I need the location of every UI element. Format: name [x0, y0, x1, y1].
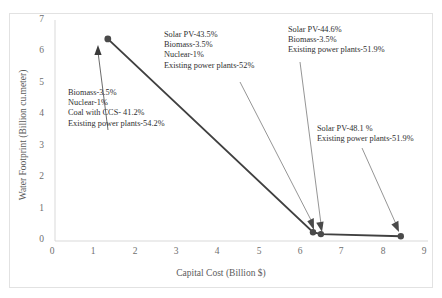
y-tick-7: 7 — [26, 14, 44, 24]
data-point-3 — [318, 231, 324, 237]
annotation-block-3: Solar PV-44.6% Biomass-3.5% Existing pow… — [288, 25, 385, 56]
leader-line-4 — [362, 148, 396, 224]
x-tick-1: 1 — [84, 246, 102, 256]
annotation-1-line-3: Coal with CCS- 41.2% — [68, 108, 165, 118]
data-point-1 — [104, 36, 111, 43]
y-tick-5: 5 — [26, 77, 44, 87]
x-tick-0: 0 — [43, 246, 61, 256]
y-tick-3: 3 — [26, 140, 44, 150]
x-tick-7: 7 — [332, 246, 350, 256]
x-tick-3: 3 — [167, 246, 185, 256]
annotation-2-line-4: Existing power plants-52% — [164, 61, 254, 71]
annotation-1-line-1: Biomass-3.5% — [68, 88, 165, 98]
annotation-block-2: Solar PV-43.5% Biomass-3.5% Nuclear-1% E… — [164, 30, 254, 71]
x-tick-8: 8 — [374, 246, 392, 256]
arrow-head-1 — [94, 45, 101, 55]
arrow-head-4 — [391, 221, 399, 232]
annotation-3-line-2: Biomass-3.5% — [288, 35, 385, 45]
x-tick-6: 6 — [291, 246, 309, 256]
annotation-2-line-2: Biomass-3.5% — [164, 40, 254, 50]
y-tick-0: 0 — [26, 234, 44, 244]
annotation-3-line-1: Solar PV-44.6% — [288, 25, 385, 35]
x-tick-4: 4 — [208, 246, 226, 256]
annotation-1-line-2: Nuclear-1% — [68, 98, 165, 108]
y-tick-1: 1 — [26, 203, 44, 213]
leader-line-2 — [240, 82, 312, 222]
x-tick-9: 9 — [415, 246, 433, 256]
x-tick-2: 2 — [126, 246, 144, 256]
y-tick-6: 6 — [26, 45, 44, 55]
arrow-head-3 — [316, 222, 323, 232]
annotation-1-line-4: Existing power plants-54.2% — [68, 119, 165, 129]
x-tick-5: 5 — [250, 246, 268, 256]
data-point-4 — [398, 233, 404, 239]
annotation-2-line-1: Solar PV-43.5% — [164, 30, 254, 40]
annotation-block-1: Biomass-3.5% Nuclear-1% Coal with CCS- 4… — [68, 88, 165, 129]
y-axis-title: Water Footprint (Billion cu.meter) — [18, 65, 28, 205]
data-point-2 — [310, 229, 316, 235]
y-tick-4: 4 — [26, 108, 44, 118]
annotation-2-line-3: Nuclear-1% — [164, 50, 254, 60]
annotation-3-line-3: Existing power plants-51.9% — [288, 45, 385, 55]
y-tick-2: 2 — [26, 171, 44, 181]
annotation-block-4: Solar PV-48.1 % Existing power plants-51… — [317, 124, 414, 144]
x-axis-title: Capital Cost (Billion $) — [0, 268, 442, 278]
annotation-4-line-2: Existing power plants-51.9% — [317, 134, 414, 144]
annotation-4-line-1: Solar PV-48.1 % — [317, 124, 414, 134]
